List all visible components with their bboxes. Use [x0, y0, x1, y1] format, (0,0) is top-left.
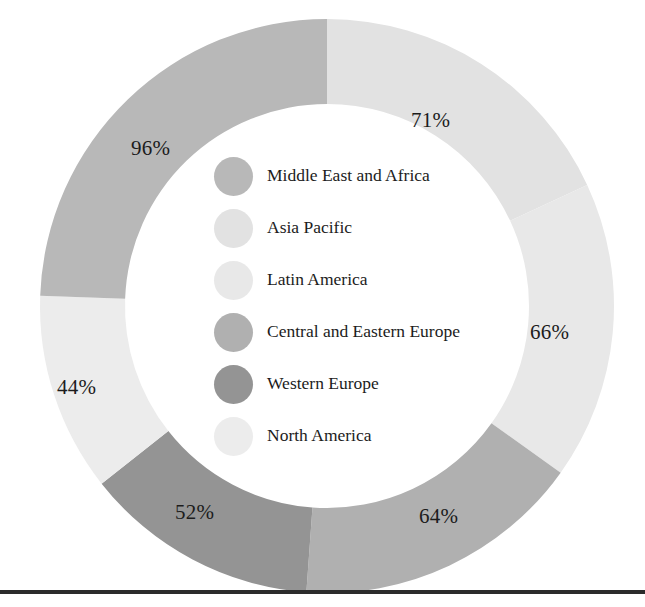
footer-divider: [0, 590, 645, 594]
legend-item-north-america[interactable]: North America: [214, 410, 464, 462]
slice-percent-label: 44%: [57, 377, 96, 398]
legend-swatch-icon: [214, 209, 253, 248]
legend-item-middle-east-and-africa[interactable]: Middle East and Africa: [214, 150, 464, 202]
slice-percent-label: 96%: [131, 138, 170, 159]
slice-percent-label: 66%: [530, 322, 569, 343]
legend-item-asia-pacific[interactable]: Asia Pacific: [214, 202, 464, 254]
legend-swatch-icon: [214, 157, 253, 196]
legend-item-label: Latin America: [267, 271, 368, 289]
legend-item-central-and-eastern-europe[interactable]: Central and Eastern Europe: [214, 306, 464, 358]
legend-item-western-europe[interactable]: Western Europe: [214, 358, 464, 410]
legend-item-label: Asia Pacific: [267, 219, 352, 237]
legend-item-label: Middle East and Africa: [267, 167, 430, 185]
legend-item-label: Western Europe: [267, 375, 379, 393]
legend-swatch-icon: [214, 261, 253, 300]
legend-item-label: Central and Eastern Europe: [267, 323, 460, 341]
slice-percent-label: 52%: [175, 502, 214, 523]
slice-percent-label: 64%: [419, 506, 458, 527]
legend-item-label: North America: [267, 427, 371, 445]
legend-swatch-icon: [214, 313, 253, 352]
chart-legend: Middle East and Africa Asia Pacific Lati…: [214, 150, 464, 462]
legend-swatch-icon: [214, 365, 253, 404]
legend-item-latin-america[interactable]: Latin America: [214, 254, 464, 306]
donut-chart: 71% 96% 66% 44% 52% 64% Middle East and …: [0, 0, 645, 607]
legend-swatch-icon: [214, 417, 253, 456]
slice-percent-label: 71%: [411, 110, 450, 131]
